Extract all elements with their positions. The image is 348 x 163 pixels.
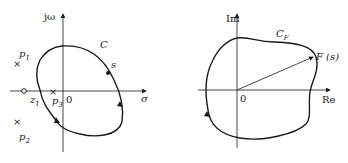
origin-label: 0 xyxy=(240,93,246,104)
f-of-s-label: F (s) xyxy=(315,51,339,62)
jw-axis-label: jω xyxy=(43,11,55,22)
point-s-label: s xyxy=(111,59,116,70)
im-axis-label: Im xyxy=(226,13,240,24)
s-plane-plot: jω σ 0 C s × p1 × p2 × p3 z1 xyxy=(10,11,149,152)
pole-p3-label: p3 xyxy=(52,95,63,109)
nyquist-mapping-diagram: jω σ 0 C s × p1 × p2 × p3 z1 Im Re 0 CF xyxy=(0,0,348,163)
origin-label: 0 xyxy=(66,94,72,105)
f-plane-plot: Im Re 0 CF F (s) xyxy=(198,13,339,148)
contour-cf xyxy=(206,38,317,139)
pole-p2-label: p2 xyxy=(19,131,30,145)
point-s-dot xyxy=(106,71,110,75)
contour-cf-label: CF xyxy=(276,28,290,42)
zero-z1-label: z1 xyxy=(29,94,40,108)
pole-p1-marker-icon: × xyxy=(13,58,21,69)
f-of-s-vector xyxy=(237,57,313,90)
contour-c-label: C xyxy=(100,39,108,50)
pole-p2-marker-icon: × xyxy=(13,116,21,127)
sigma-axis-label: σ xyxy=(141,93,149,104)
re-axis-label: Re xyxy=(322,94,336,105)
zero-z1-marker-icon xyxy=(22,89,27,94)
